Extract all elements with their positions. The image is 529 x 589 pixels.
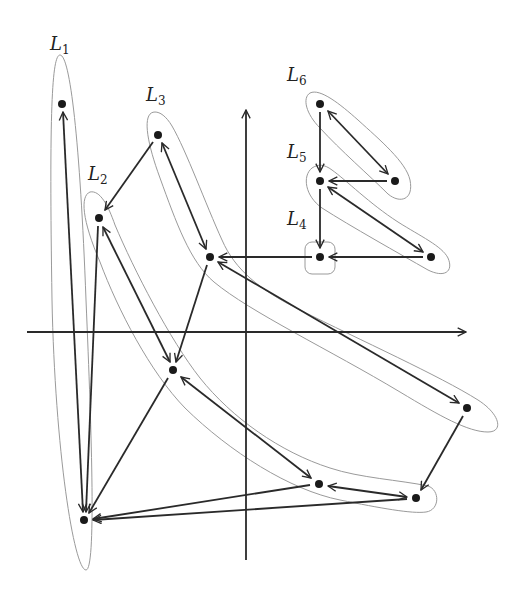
region-L2 [84,192,437,513]
edge-E-F [328,486,407,497]
level-graph-diagram: L1 L2 L3 L4 L5 L6 [0,0,529,589]
label-L6: L6 [286,64,307,88]
node-K [316,177,324,185]
region-L1 [51,55,92,570]
node-D [169,366,177,374]
edge-K-L [328,187,423,252]
edge-B-A [63,112,83,512]
label-L1: L1 [49,33,70,57]
node-F [412,494,420,502]
node-N [391,177,399,185]
edge-G-H [162,143,206,249]
edge-H-D [176,265,207,362]
label-L2: L2 [87,163,108,187]
node-L [427,253,435,261]
node-B [80,516,88,524]
edge-G-C [105,142,153,210]
node-I [463,404,471,412]
node-M [316,100,324,108]
node-J [316,253,324,261]
node-C [95,214,103,222]
edge-F-B [93,499,407,520]
label-L4: L4 [286,208,307,232]
level-regions [51,55,498,570]
node-A [58,100,66,108]
node-E [315,480,323,488]
node-H [206,253,214,261]
edge-E-B [93,485,310,519]
edge-D-B [89,378,168,513]
level-labels: L1 L2 L3 L4 L5 L6 [49,33,307,232]
label-L5: L5 [286,141,307,165]
edge-I-F [421,416,463,490]
node-G [154,131,162,139]
label-L3: L3 [145,84,166,108]
region-L3 [147,112,498,432]
